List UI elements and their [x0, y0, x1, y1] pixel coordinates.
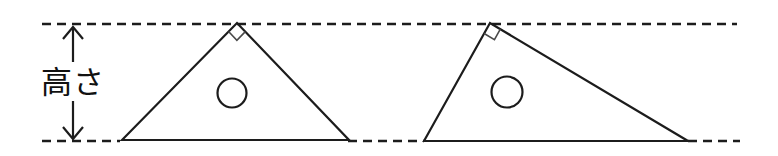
triangle-1 [122, 23, 349, 140]
triangle-circle-mark-2 [492, 77, 523, 108]
right-angle-mark-1 [229, 32, 246, 41]
triangle-circle-mark-1 [218, 79, 247, 108]
geometry-figure: 高さ [0, 0, 778, 156]
triangle-2 [424, 23, 688, 141]
figure-canvas [0, 0, 778, 156]
height-label: 高さ [41, 66, 105, 97]
